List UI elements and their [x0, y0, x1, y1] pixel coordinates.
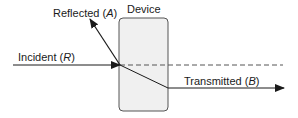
reflected-arrow [90, 19, 120, 65]
transmitted-label-var: B [248, 75, 255, 87]
reflected-label-text: Reflected ( [53, 7, 106, 19]
transmitted-label: Transmitted (B) [184, 75, 259, 87]
incident-label: Incident (R) [18, 51, 75, 63]
transmitted-label-text: Transmitted ( [184, 75, 248, 87]
incident-label-var: R [63, 51, 71, 63]
reflected-label-close: ) [114, 7, 118, 19]
transmitted-label-close: ) [256, 75, 260, 87]
incident-label-text: Incident ( [18, 51, 63, 63]
device-label: Device [127, 3, 161, 15]
incident-label-close: ) [71, 51, 75, 63]
reflected-label: Reflected (A) [53, 7, 117, 19]
reflected-label-var: A [106, 7, 113, 19]
